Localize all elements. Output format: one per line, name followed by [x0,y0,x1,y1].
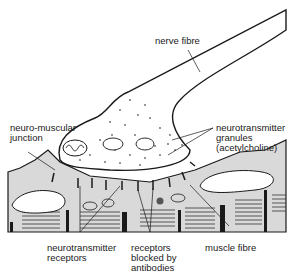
label-blocked-line3: antibodies [131,263,174,273]
label-nmj-line2: junction [10,133,43,143]
label-granules-line3: (acetylcholine) [216,143,277,153]
label-nerve-fibre: nerve fibre [155,36,200,46]
label-receptors-line2: receptors [47,253,87,263]
label-muscle-fibre: muscle fibre [205,243,256,253]
